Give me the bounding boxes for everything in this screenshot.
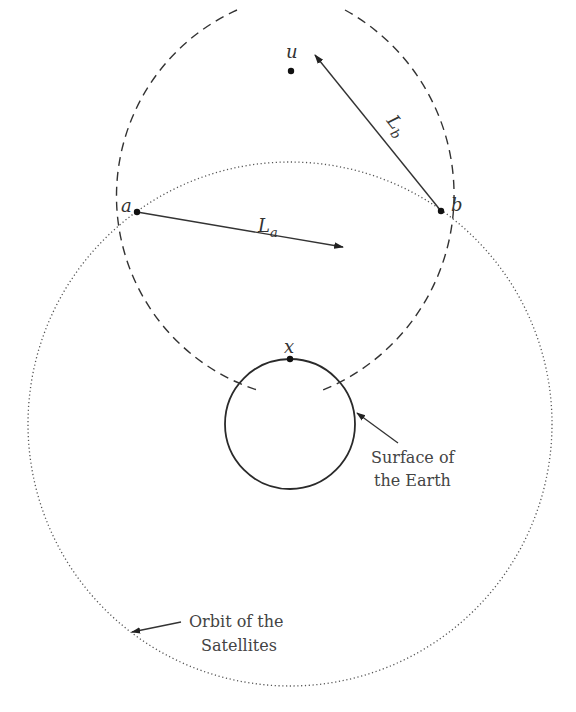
orbit-annotation-line1: Orbit of the [189, 612, 283, 631]
earth-annotation-line1: Surface of [371, 448, 456, 467]
earth-circle [225, 359, 355, 489]
label-x: x [284, 336, 294, 357]
distance-arrow-la [137, 212, 343, 247]
range-arc-from-a [323, 10, 454, 390]
point-b [438, 208, 444, 214]
label-u: u [286, 41, 298, 62]
satellite-positioning-diagram: u a b x La Lb Surface of the Earth Orbit… [0, 0, 576, 712]
label-b: b [451, 194, 463, 215]
label-lb: Lb [379, 110, 412, 142]
earth-annotation-line2: the Earth [374, 471, 451, 490]
label-la: La [257, 215, 278, 240]
orbit-circle [28, 162, 552, 686]
earth-annotation-arrow [357, 413, 398, 443]
orbit-annotation-line2: Satellites [201, 636, 277, 655]
point-a [134, 209, 140, 215]
distance-arrow-lb [315, 55, 441, 211]
label-a: a [121, 195, 132, 216]
range-arc-from-b [116, 10, 257, 390]
orbit-annotation-arrow [132, 622, 181, 632]
point-u [288, 68, 294, 74]
